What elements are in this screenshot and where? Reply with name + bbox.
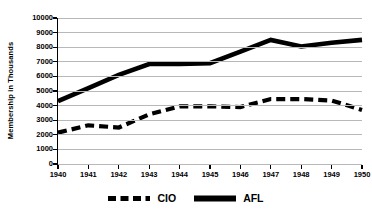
y-axis-tick [53, 17, 57, 18]
x-axis-tick-label: 1949 [323, 171, 340, 179]
y-axis-tick [53, 47, 57, 48]
y-axis-tick-label: 1000 [36, 146, 53, 154]
y-axis-tick [53, 76, 57, 77]
gridline [58, 134, 362, 135]
y-axis-tick [53, 134, 57, 135]
y-axis-tick [53, 163, 57, 164]
gridline [58, 32, 362, 33]
x-axis-tick [209, 165, 210, 169]
legend-label-cio: CIO [157, 193, 176, 204]
gridline [58, 91, 362, 92]
y-axis-tick-labels: 0100020003000400050006000700080009000100… [20, 18, 56, 164]
x-axis-tick-label: 1944 [171, 171, 188, 179]
x-axis-tick-label: 1940 [50, 171, 67, 179]
membership-line-chart: Membership in Thousands 0100020003000400… [0, 0, 372, 214]
x-axis-tick [88, 165, 89, 169]
dashed-line-swatch [108, 193, 150, 204]
gridline [58, 105, 362, 106]
y-axis-tick-label: 9000 [36, 29, 53, 37]
y-axis-title-text: Membership in Thousands [7, 41, 16, 138]
x-axis-tick [331, 165, 332, 169]
x-axis-tick [118, 165, 119, 169]
x-axis-tick-label: 1942 [110, 171, 127, 179]
legend-entry-afl: AFL [194, 193, 263, 204]
y-axis-title: Membership in Thousands [0, 0, 22, 180]
y-axis-tick-label: 6000 [36, 73, 53, 81]
x-axis-tick [270, 165, 271, 169]
x-axis-tick-label: 1941 [80, 171, 97, 179]
x-axis-tick-label: 1945 [202, 171, 219, 179]
x-axis-tick [361, 165, 362, 169]
gridline [58, 47, 362, 48]
gridline [58, 18, 362, 19]
y-axis-tick-label: 7000 [36, 58, 53, 66]
y-axis-tick [53, 90, 57, 91]
x-axis-tick-label: 1946 [232, 171, 249, 179]
gridline [58, 120, 362, 121]
x-axis-tick [301, 165, 302, 169]
y-axis-tick [53, 149, 57, 150]
y-axis-tick-label: 3000 [36, 116, 53, 124]
x-axis-tick-label: 1943 [141, 171, 158, 179]
y-axis-tick-label: 5000 [36, 87, 53, 95]
plot-area [58, 18, 362, 164]
y-axis-tick [53, 120, 57, 121]
x-axis-tick [57, 165, 58, 169]
x-axis-tick-label: 1948 [293, 171, 310, 179]
y-axis-tick-label: 8000 [36, 43, 53, 51]
y-axis-tick [53, 105, 57, 106]
x-axis-tick-label: 1950 [354, 171, 371, 179]
x-axis-tick [179, 165, 180, 169]
y-axis-tick-label: 2000 [36, 131, 53, 139]
y-axis-tick-label: 10000 [32, 14, 53, 22]
y-axis-tick [53, 61, 57, 62]
y-axis-tick-label: 4000 [36, 102, 53, 110]
y-axis-tick [53, 32, 57, 33]
gridline [58, 76, 362, 77]
gridline [58, 149, 362, 150]
chart-legend: CIO AFL [0, 188, 372, 208]
x-axis-tick-label: 1947 [262, 171, 279, 179]
series-line-afl [58, 40, 362, 101]
gridline [58, 61, 362, 62]
legend-label-afl: AFL [243, 193, 263, 204]
x-axis-tick [149, 165, 150, 169]
legend-entry-cio: CIO [108, 193, 176, 204]
x-axis-tick-labels: 1940194119421943194419451946194719481949… [58, 171, 362, 183]
solid-line-swatch [194, 193, 236, 204]
x-axis-tick [240, 165, 241, 169]
series-line-cio [58, 99, 362, 133]
